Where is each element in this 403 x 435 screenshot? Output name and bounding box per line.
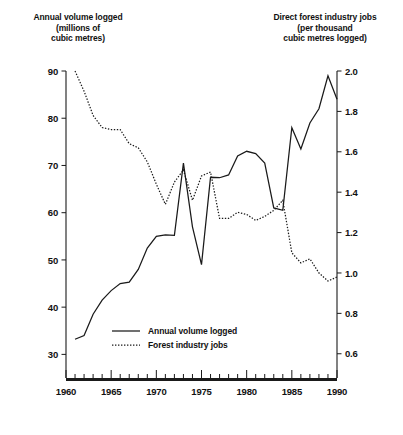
series-group: [75, 71, 337, 339]
chart-legend: Annual volume loggedForest industry jobs: [112, 326, 237, 350]
x-axis-tick-label: 1975: [191, 386, 212, 397]
right-axis-tick-label: 0.6: [345, 348, 358, 359]
right-axis-tick-label: 0.8: [345, 308, 358, 319]
left-axis-tick-label: 50: [48, 255, 58, 266]
left-axis-tick-label: 60: [48, 207, 58, 218]
right-axis-tick-label: 1.8: [345, 106, 358, 117]
x-axis-tick-label: 1980: [236, 386, 256, 397]
legend-label-1: Annual volume logged: [148, 326, 237, 336]
left-axis-tick-label: 80: [48, 113, 58, 124]
right-axis-tick-label: 1.2: [345, 227, 358, 238]
x-axis-tick-label: 1985: [282, 386, 303, 397]
chart-plot-area: 304050607080900.60.81.01.21.41.61.82.019…: [0, 0, 403, 435]
x-axis-tick-label: 1970: [146, 386, 166, 397]
series-line-1: [75, 76, 337, 340]
right-axis-tick-label: 1.0: [345, 268, 358, 279]
x-axis-tick-label: 1965: [101, 386, 122, 397]
right-axis-tick-label: 2.0: [345, 66, 358, 77]
right-axis-tick-label: 1.4: [345, 187, 359, 198]
x-axis-tick-label: 1960: [56, 386, 76, 397]
left-axis-tick-label: 30: [48, 349, 58, 360]
left-axis-tick-label: 70: [48, 160, 58, 171]
left-axis-tick-label: 40: [48, 302, 58, 313]
series-line-2: [75, 71, 337, 281]
left-axis-tick-label: 90: [48, 66, 58, 77]
x-axis-tick-label: 1990: [327, 386, 347, 397]
chart-figure: Annual volume logged (millions of cubic …: [0, 0, 403, 435]
right-axis-tick-label: 1.6: [345, 146, 358, 157]
legend-label-2: Forest industry jobs: [148, 340, 228, 350]
